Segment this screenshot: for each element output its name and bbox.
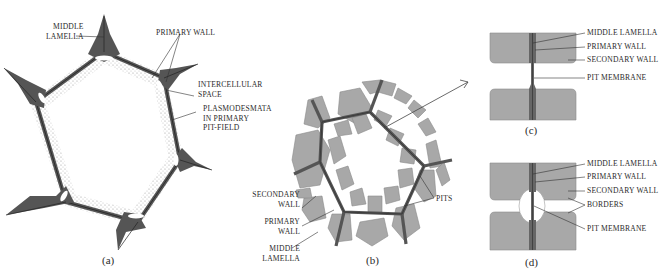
plant-cell-wall-figure: MIDDLE LAMELLA PRIMARY WALL INTERCELLULA… — [0, 0, 670, 274]
label-d-secondary-wall: SECONDARY WALL — [587, 186, 658, 196]
label-d-borders: BORDERS — [587, 200, 623, 210]
label-d-pit-membrane: PIT MEMBRANE — [587, 224, 646, 234]
panel-d-drawing — [0, 0, 670, 274]
bordered-pit — [490, 163, 576, 250]
label-d-primary-wall: PRIMARY WALL — [587, 172, 646, 182]
caption-d: (d) — [525, 256, 538, 268]
label-d-middle-lamella: MIDDLE LAMELLA — [587, 159, 658, 169]
